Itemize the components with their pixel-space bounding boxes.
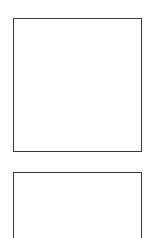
screen-viewport — [0, 0, 149, 238]
upper-panel-content — [14, 19, 141, 151]
lower-panel[interactable] — [13, 172, 142, 238]
lower-panel-content — [14, 173, 141, 238]
upper-panel[interactable] — [13, 18, 142, 152]
